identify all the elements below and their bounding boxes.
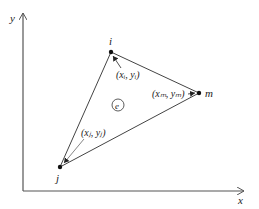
node-j-label: j [54,172,59,184]
node-i [109,50,113,54]
node-i-label: i [109,35,112,47]
node-m-coords: (xₘ, yₘ) [152,88,185,100]
node-m [197,91,201,95]
node-j-coords: (xⱼ, yⱼ) [81,127,106,139]
element-label: e [115,101,119,111]
node-i-coords: (xᵢ, yᵢ) [116,69,140,81]
x-axis-label: x [237,194,243,206]
leader-i [113,56,121,68]
triangle-element-diagram: y x i m j (xᵢ, yᵢ) (xₘ, yₘ) (xⱼ, yⱼ) e [0,0,259,209]
node-j [58,165,62,169]
node-m-label: m [205,87,213,99]
leader-m [188,93,195,94]
y-axis-label: y [9,12,15,24]
